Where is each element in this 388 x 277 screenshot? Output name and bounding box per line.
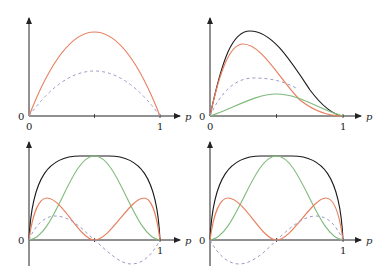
black-curve	[210, 31, 343, 116]
dashed-curve	[29, 71, 160, 116]
x-zero-label: 0	[26, 121, 32, 132]
y-zero-label: 0	[199, 111, 205, 122]
panel-top-left: 0 0 1 p	[18, 18, 192, 132]
x-one-label: 1	[340, 245, 346, 256]
panel-top-right: 0 0 1 p	[199, 18, 373, 132]
x-axis-label: p	[366, 111, 373, 122]
orange-curve	[210, 198, 343, 240]
y-zero-label: 0	[18, 111, 24, 122]
y-zero-label: 0	[18, 235, 24, 246]
x-axis-label: p	[185, 235, 192, 246]
x-axis-label: p	[185, 111, 192, 122]
x-one-label: 1	[157, 245, 163, 256]
x-zero-label: 0	[207, 121, 213, 132]
x-one-label: 1	[340, 121, 346, 132]
y-zero-label: 0	[199, 235, 205, 246]
orange-curve	[29, 32, 160, 116]
figure: 0 0 1 p 0 0 1 p 0 1 p	[0, 0, 388, 277]
panel-bottom-left: 0 1 p	[18, 142, 192, 266]
x-one-label: 1	[157, 121, 163, 132]
panel-bottom-right: 0 1 p	[199, 142, 373, 266]
orange-curve	[29, 198, 160, 240]
dashed-curve	[210, 78, 296, 116]
x-axis-label: p	[366, 235, 373, 246]
